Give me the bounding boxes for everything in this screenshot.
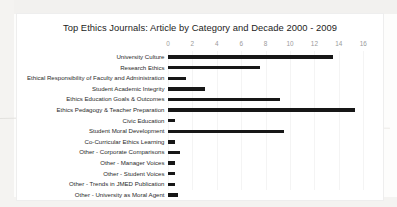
bar bbox=[168, 161, 175, 164]
bar-row: Other - Manager Voices bbox=[17, 158, 383, 169]
bar-row: Ethical Responsibility of Faculty and Ad… bbox=[17, 73, 383, 84]
category-label: Student Moral Development bbox=[89, 126, 165, 137]
category-label: Other - University as Moral Agent bbox=[75, 190, 165, 201]
category-label: Ethics Education Goals & Outcomes bbox=[66, 94, 164, 105]
x-tick-label: 12 bbox=[311, 40, 318, 47]
x-tick-label: 14 bbox=[335, 40, 342, 47]
bar-row: Ethics Pedagogy & Teacher Preparation bbox=[17, 105, 383, 116]
bar bbox=[168, 193, 178, 196]
bar-row: Other - University as Moral Agent bbox=[17, 190, 383, 201]
bar bbox=[168, 183, 175, 186]
category-label: Ethical Responsibility of Faculty and Ad… bbox=[27, 73, 165, 84]
bar-track bbox=[168, 179, 383, 190]
x-tick-label: 2 bbox=[191, 40, 195, 47]
bar-row: Ethics Education Goals & Outcomes bbox=[17, 94, 383, 105]
bar-rows: University CultureResearch EthicsEthical… bbox=[17, 52, 383, 200]
bar bbox=[168, 172, 175, 175]
bar-track bbox=[168, 63, 383, 74]
bar-track bbox=[168, 137, 383, 148]
bar-row: Research Ethics bbox=[17, 63, 383, 74]
bar-track bbox=[168, 105, 383, 116]
scan-edge-left bbox=[0, 0, 14, 207]
category-label: University Culture bbox=[116, 52, 164, 63]
x-axis-tick-labels: 0246810121416 bbox=[17, 40, 383, 51]
bar-track bbox=[168, 52, 383, 63]
x-tick-label: 0 bbox=[166, 40, 170, 47]
bar bbox=[168, 55, 333, 58]
bar-track bbox=[168, 126, 383, 137]
bar-row: Co-Curricular Ethics Learning bbox=[17, 137, 383, 148]
scan-edge-top bbox=[0, 0, 397, 14]
bar-row: Civic Education bbox=[17, 116, 383, 127]
bar-track bbox=[168, 147, 383, 158]
category-label: Civic Education bbox=[123, 116, 165, 127]
bar-row: Student Academic Integrity bbox=[17, 84, 383, 95]
bar bbox=[168, 140, 175, 143]
bar bbox=[168, 77, 186, 80]
bar bbox=[168, 66, 260, 69]
bar-track bbox=[168, 169, 383, 180]
category-label: Ethics Pedagogy & Teacher Preparation bbox=[57, 105, 165, 116]
bar-row: Other - Student Voices bbox=[17, 169, 383, 180]
x-tick-label: 8 bbox=[264, 40, 268, 47]
category-label: Research Ethics bbox=[120, 63, 164, 74]
category-label: Other - Corporate Comparisons bbox=[79, 147, 164, 158]
category-label: Other - Trends in JMED Publication bbox=[69, 179, 165, 190]
category-label: Co-Curricular Ethics Learning bbox=[85, 137, 165, 148]
x-tick-label: 10 bbox=[286, 40, 293, 47]
bar-track bbox=[168, 190, 383, 201]
category-label: Other - Manager Voices bbox=[100, 158, 164, 169]
bar bbox=[168, 119, 175, 122]
plot-area: 0246810121416 University CultureResearch… bbox=[17, 40, 383, 192]
bar bbox=[168, 130, 284, 133]
bar-row: Other - Trends in JMED Publication bbox=[17, 179, 383, 190]
chart-container: Top Ethics Journals: Article by Category… bbox=[16, 13, 384, 201]
x-tick-label: 4 bbox=[215, 40, 219, 47]
x-tick-label: 6 bbox=[239, 40, 243, 47]
bar bbox=[168, 108, 355, 111]
bar-track bbox=[168, 84, 383, 95]
bar-track bbox=[168, 116, 383, 127]
bar-row: Other - Corporate Comparisons bbox=[17, 147, 383, 158]
category-label: Other - Student Voices bbox=[103, 169, 164, 180]
x-tick-label: 16 bbox=[360, 40, 367, 47]
bar-track bbox=[168, 158, 383, 169]
bar bbox=[168, 98, 280, 101]
category-label: Student Academic Integrity bbox=[92, 84, 165, 95]
bar bbox=[168, 87, 205, 90]
bar-track bbox=[168, 94, 383, 105]
chart-title: Top Ethics Journals: Article by Category… bbox=[17, 22, 383, 33]
bar-track bbox=[168, 73, 383, 84]
bar-row: Student Moral Development bbox=[17, 126, 383, 137]
bar-row: University Culture bbox=[17, 52, 383, 63]
bar bbox=[168, 151, 180, 154]
